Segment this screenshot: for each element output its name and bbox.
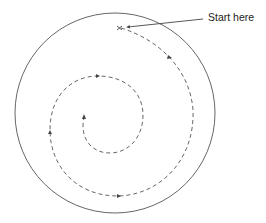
arrow-icon bbox=[82, 114, 86, 119]
spiral-path bbox=[50, 28, 193, 196]
start-here-label: Start here bbox=[208, 11, 254, 23]
spiral-diagram bbox=[0, 0, 266, 223]
arrow-icon bbox=[167, 55, 172, 59]
direction-arrows bbox=[48, 55, 172, 198]
label-leader-line bbox=[128, 19, 203, 27]
arrow-icon bbox=[96, 74, 100, 78]
arrow-icon bbox=[48, 130, 52, 134]
outer-circle bbox=[15, 13, 215, 213]
arrow-icon bbox=[117, 194, 121, 198]
